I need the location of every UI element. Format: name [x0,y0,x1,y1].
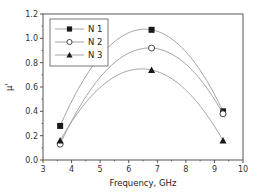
circle-marker-icon [67,39,72,44]
legend: N 1N 2N 3 [50,19,108,66]
circle-marker-icon [149,45,155,51]
y-tick-label: 0.4 [25,107,38,116]
circle-marker-icon [220,111,226,117]
y-tick-label: 1.2 [25,10,38,19]
triangle-marker-icon [220,137,227,144]
legend-label: N 3 [88,50,102,60]
x-tick-label: 8 [183,165,188,174]
x-tick-label: 3 [40,165,45,174]
x-tick-label: 6 [126,165,131,174]
y-tick-label: 0.8 [25,59,38,68]
series-line [60,69,223,141]
x-tick-label: 9 [212,165,217,174]
y-tick-label: 0.0 [25,156,38,165]
x-tick-label: 10 [238,165,248,174]
x-axis-label: Frequency, GHz [110,178,177,188]
legend-label: N 1 [88,24,102,34]
y-tick-label: 0.6 [25,83,38,92]
plot-area: 3456789100.00.20.40.60.81.01.2N 1N 2N 3 [25,10,248,174]
y-tick-label: 0.2 [25,132,38,141]
legend-label: N 2 [88,37,102,47]
square-marker-icon [67,26,72,31]
y-tick-label: 1.0 [25,34,38,43]
y-axis-label: μ' [4,83,14,91]
x-tick-label: 4 [69,165,74,174]
square-marker-icon [149,27,155,33]
series-n3 [57,66,227,143]
x-tick-label: 7 [155,165,160,174]
square-marker-icon [57,123,63,129]
chart: 3456789100.00.20.40.60.81.01.2N 1N 2N 3 … [0,0,257,192]
x-tick-label: 5 [98,165,103,174]
